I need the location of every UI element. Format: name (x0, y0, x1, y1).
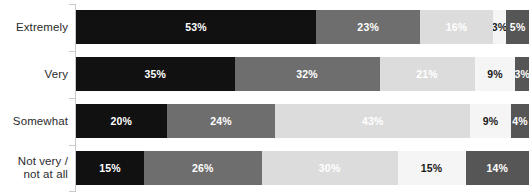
segment-value-label: 30% (319, 162, 341, 174)
bar-segment-1[interactable]: 15% (76, 151, 144, 185)
segment-value-label: 21% (416, 68, 438, 80)
bar-segment-1[interactable]: 53% (76, 10, 316, 44)
stacked-bar: 35% 32% 21% 9% 3% (76, 57, 529, 91)
bar-segment-2[interactable]: 32% (235, 57, 380, 91)
segment-value-label: 15% (421, 162, 443, 174)
segment-value-label: 24% (210, 115, 232, 127)
segment-value-label: 20% (110, 115, 132, 127)
bar-segment-3[interactable]: 16% (420, 10, 492, 44)
category-label-line: Very (0, 68, 68, 81)
category-label: Very (0, 68, 68, 81)
bar-segment-5[interactable]: 3% (515, 57, 529, 91)
segment-value-label: 15% (99, 162, 121, 174)
segment-value-label: 26% (192, 162, 214, 174)
bar-segment-2[interactable]: 23% (316, 10, 420, 44)
bar-segment-4[interactable]: 9% (475, 57, 516, 91)
stacked-bar: 15% 26% 30% 15% 14% (76, 151, 529, 185)
segment-value-label: 9% (487, 68, 503, 80)
bar-segment-4[interactable]: 3% (493, 10, 507, 44)
segment-value-label: 3% (493, 21, 507, 33)
stacked-bar: 20% 24% 43% 9% 4% (76, 104, 529, 138)
category-label: Extremely (0, 21, 68, 34)
stacked-bar: 53% 23% 16% 3% 5% (76, 10, 529, 44)
chart-row: Somewhat 20% 24% 43% 9% 4% (0, 98, 531, 145)
category-label-line: Extremely (0, 21, 68, 34)
bar-segment-5[interactable]: 5% (506, 10, 529, 44)
segment-value-label: 4% (512, 115, 528, 127)
bar-segment-1[interactable]: 20% (76, 104, 167, 138)
bar-segment-5[interactable]: 4% (511, 104, 529, 138)
category-label-line: not at all (0, 168, 68, 181)
segment-value-label: 43% (362, 115, 384, 127)
segment-value-label: 5% (510, 21, 526, 33)
segment-value-label: 16% (446, 21, 468, 33)
segment-value-label: 14% (486, 162, 508, 174)
chart-row: Very 35% 32% 21% 9% 3% (0, 51, 531, 98)
category-label-line: Not very / (0, 155, 68, 168)
bar-segment-3[interactable]: 43% (275, 104, 470, 138)
bar-segment-3[interactable]: 30% (262, 151, 398, 185)
bar-segment-2[interactable]: 24% (167, 104, 276, 138)
segment-value-label: 23% (357, 21, 379, 33)
bar-segment-2[interactable]: 26% (144, 151, 262, 185)
category-label: Not very / not at all (0, 155, 68, 181)
segment-value-label: 32% (296, 68, 318, 80)
bar-segment-1[interactable]: 35% (76, 57, 235, 91)
chart-row: Extremely 53% 23% 16% 3% 5% (0, 4, 531, 51)
category-label: Somewhat (0, 115, 68, 128)
chart-row: Not very / not at all 15% 26% 30% 15% 14… (0, 145, 531, 192)
bar-segment-3[interactable]: 21% (380, 57, 475, 91)
bar-segment-4[interactable]: 9% (470, 104, 511, 138)
segment-value-label: 3% (515, 68, 529, 80)
segment-value-label: 9% (483, 115, 499, 127)
category-label-line: Somewhat (0, 115, 68, 128)
bar-segment-4[interactable]: 15% (398, 151, 466, 185)
stacked-bar-chart: Extremely 53% 23% 16% 3% 5% Very (0, 0, 531, 196)
segment-value-label: 35% (144, 68, 166, 80)
segment-value-label: 53% (185, 21, 207, 33)
bar-segment-5[interactable]: 14% (466, 151, 529, 185)
